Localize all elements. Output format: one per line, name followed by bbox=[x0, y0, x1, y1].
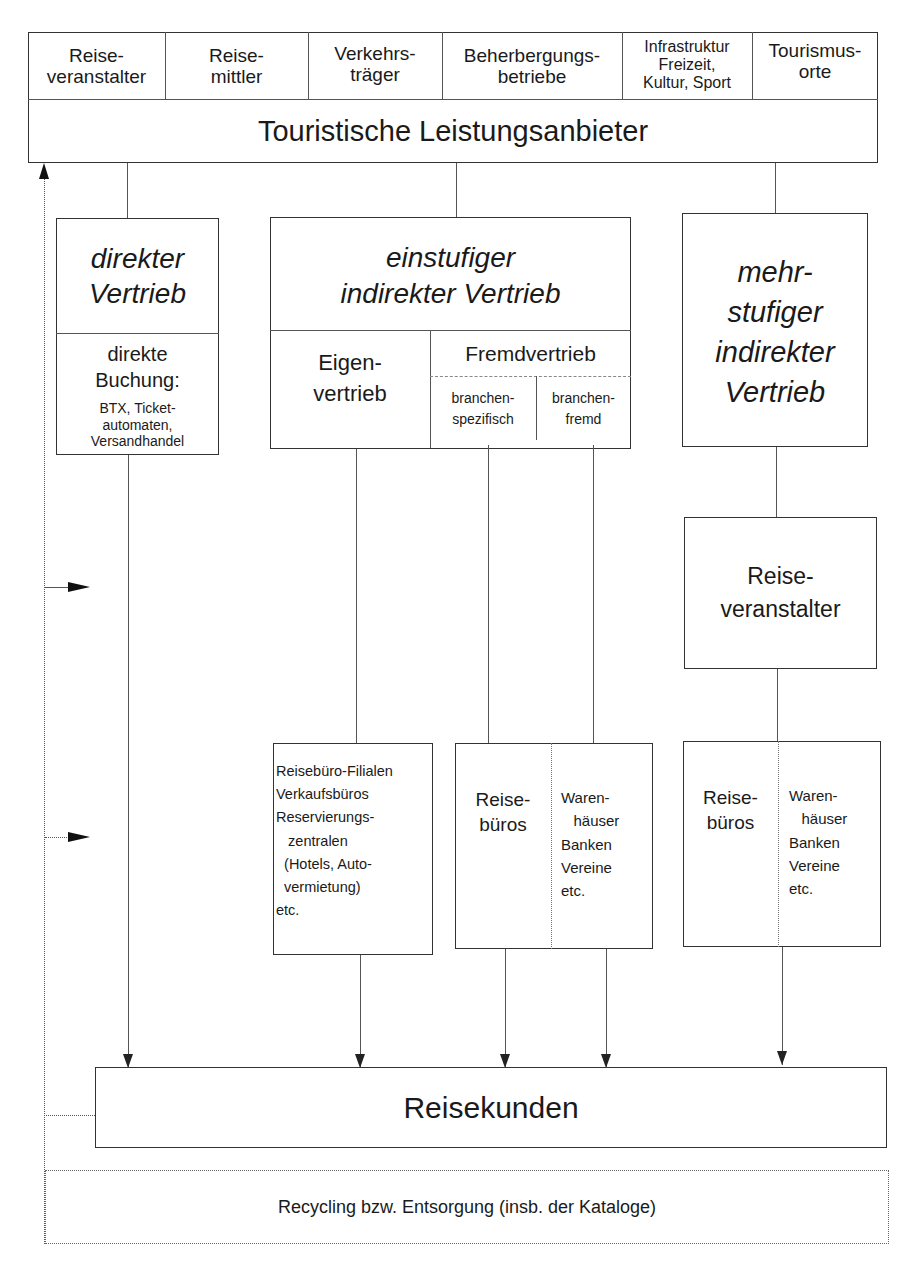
external-subheader-divider bbox=[430, 376, 631, 377]
connector-line bbox=[128, 455, 129, 1067]
external-industry-specific-label: branchen- spezifisch bbox=[430, 378, 536, 440]
arrow-right-icon bbox=[68, 582, 90, 592]
multi-stage-channel-title: mehr- stufiger indirekter Vertrieb bbox=[682, 222, 868, 442]
provider-category-reisemittler: Reise- mittler bbox=[165, 33, 308, 99]
single-stage-other-outlets-list: Waren- häuser Banken Vereine etc. bbox=[561, 786, 651, 902]
own-distribution-label: Eigen- vertrieb bbox=[270, 334, 430, 424]
connector-line bbox=[127, 163, 128, 218]
arrow-down-icon bbox=[777, 1051, 787, 1065]
connector-line bbox=[775, 163, 776, 213]
own-outlets-list: Reisebüro-Filialen Verkaufsbüros Reservi… bbox=[276, 760, 432, 922]
connector-line bbox=[505, 949, 506, 1067]
direct-booking-detail: BTX, Ticket- automaten, Versandhandel bbox=[56, 396, 219, 454]
provider-category-beherbergungsbetriebe: Beherbergungs- betriebe bbox=[442, 33, 622, 99]
arrow-down-icon bbox=[601, 1054, 611, 1068]
multi-stage-travel-agencies-label: Reise- büros bbox=[683, 786, 778, 835]
feedback-from-customers-line bbox=[44, 1115, 95, 1116]
connector-line bbox=[593, 445, 594, 743]
arrow-up-icon bbox=[39, 163, 49, 179]
external-industry-foreign-label: branchen- fremd bbox=[536, 378, 631, 440]
connector-line bbox=[782, 947, 783, 1065]
connector-line bbox=[456, 163, 457, 217]
connector-line bbox=[356, 449, 357, 743]
multi-stage-tour-operator-label: Reise- veranstalter bbox=[684, 520, 877, 666]
direct-booking-label: direkte Buchung: bbox=[56, 336, 219, 398]
connector-line bbox=[776, 447, 777, 517]
single-stage-travel-agencies-label: Reise- büros bbox=[455, 788, 551, 837]
arrow-down-icon bbox=[500, 1054, 510, 1068]
external-distribution-label: Fremdvertrieb bbox=[430, 333, 631, 375]
multi-stage-other-outlets-list: Waren- häuser Banken Vereine etc. bbox=[789, 784, 879, 900]
provider-category-verkehrstraeger: Verkehrs- träger bbox=[308, 31, 442, 97]
arrow-down-icon bbox=[123, 1054, 133, 1068]
single-stage-channel-title: einstufiger indirekter Vertrieb bbox=[270, 222, 631, 330]
feedback-loop-line bbox=[44, 178, 45, 1244]
recycling-label: Recycling bzw. Entsorgung (insb. der Kat… bbox=[45, 1172, 889, 1242]
single-stage-divider bbox=[270, 330, 631, 331]
connector-line bbox=[488, 445, 489, 743]
connector-line bbox=[777, 669, 778, 741]
connector-line bbox=[606, 949, 607, 1067]
outlets-divider bbox=[551, 743, 552, 949]
connector-line bbox=[360, 955, 361, 1067]
provider-category-infrastruktur: Infrastruktur Freizeit, Kultur, Sport bbox=[622, 32, 752, 98]
outlets-divider bbox=[778, 741, 779, 947]
arrow-right-icon bbox=[68, 832, 90, 842]
customers-label: Reisekunden bbox=[95, 1068, 887, 1148]
arrow-down-icon bbox=[355, 1054, 365, 1068]
providers-title: Touristische Leistungsanbieter bbox=[28, 100, 878, 162]
provider-category-reiseveranstalter: Reise- veranstalter bbox=[28, 33, 165, 99]
provider-category-tourismusorte: Tourismus- orte bbox=[752, 31, 878, 91]
direct-channel-title: direkter Vertrieb bbox=[56, 220, 219, 332]
direct-channel-divider bbox=[56, 333, 219, 334]
